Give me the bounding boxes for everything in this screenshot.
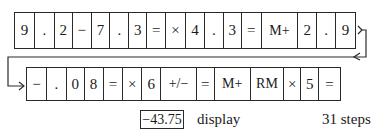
key-minus: − [27, 68, 47, 100]
key-recall-memory: RM [251, 68, 285, 100]
key-equals: = [104, 68, 124, 100]
key-0: 0 [67, 68, 85, 100]
key-equals: = [197, 68, 215, 100]
key-memory-plus: M+ [215, 68, 251, 100]
display-value-box: −43.75 [140, 110, 184, 129]
keystroke-row-2: − . 0 8 = × 6 +/− = M+ RM × 5 = [26, 67, 341, 101]
display-label: display [197, 110, 240, 129]
key-8: 8 [85, 68, 104, 100]
arrow-right-icon [358, 26, 362, 34]
key-5: 5 [301, 68, 319, 100]
key-decimal: . [47, 68, 67, 100]
key-equals: = [319, 68, 340, 100]
key-multiply: × [123, 68, 142, 100]
step-count: 31 steps [322, 110, 371, 129]
key-multiply: × [284, 68, 301, 100]
key-6: 6 [142, 68, 161, 100]
key-change-sign: +/− [161, 68, 197, 100]
